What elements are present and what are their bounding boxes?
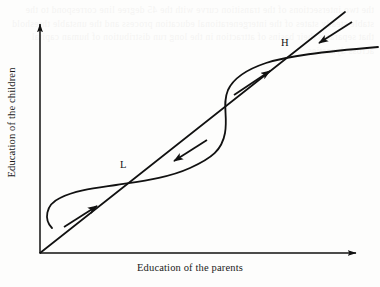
forty-five-degree-line (40, 12, 345, 253)
y-axis-label: Education of the children (6, 67, 17, 177)
axes-group (40, 24, 356, 253)
y-axis-label-wrapper: Education of the children (0, 0, 22, 245)
x-axis-label: Education of the parents (0, 262, 380, 273)
flow-arrows-group (64, 22, 352, 227)
arrow-toward-H-from-right (319, 22, 352, 43)
arrow-toward-L-from-left (64, 206, 97, 227)
chart-canvas (0, 0, 380, 287)
transition-curve (47, 47, 378, 228)
equilibrium-label-H: H (281, 38, 289, 49)
education-mobility-figure: the two intersections of the transition … (0, 0, 380, 287)
arrow-toward-H-from-left (234, 71, 270, 95)
equilibrium-label-L: L (120, 160, 126, 171)
